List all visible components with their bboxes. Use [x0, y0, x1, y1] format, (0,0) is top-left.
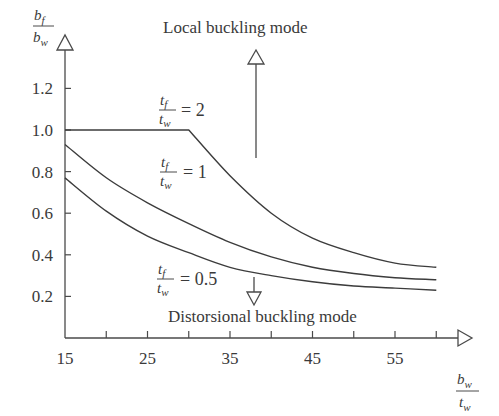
y-tick-label: 0.4 — [32, 246, 54, 265]
x-ticks: 1525354555 — [57, 331, 437, 368]
local-buckling-annotation: Local buckling mode — [163, 18, 307, 158]
y-tick-label: 0.6 — [32, 204, 53, 223]
y-tick-label: 0.8 — [32, 163, 53, 182]
svg-text:tw: tw — [157, 280, 169, 298]
curve-label-tf-tw-1: tf tw = 1 — [160, 154, 207, 191]
y-tick-label: 1.0 — [32, 121, 53, 140]
svg-text:tf: tf — [160, 92, 169, 110]
x-tick-label: 25 — [139, 349, 156, 368]
y-axis-arrowhead-icon — [57, 35, 73, 50]
curve-label-tf-tw-2: tf tw = 2 — [159, 92, 205, 129]
x-tick-label: 35 — [222, 349, 239, 368]
svg-text:tw: tw — [159, 111, 171, 129]
y-label-denominator: bw — [33, 29, 49, 48]
y-tick-label: 0.2 — [32, 287, 53, 306]
buckling-mode-chart: 0.20.40.60.81.01.2 1525354555 bf bw bw t… — [0, 0, 499, 416]
axes — [57, 35, 472, 346]
x-label-denominator: tw — [459, 394, 471, 413]
distortional-buckling-label: Distorsional buckling mode — [168, 307, 357, 326]
local-buckling-label: Local buckling mode — [163, 18, 307, 37]
x-tick-label: 55 — [387, 349, 404, 368]
up-arrow-icon — [248, 50, 264, 64]
svg-text:= 1: = 1 — [183, 162, 207, 182]
svg-text:tw: tw — [160, 173, 172, 191]
y-label-numerator: bf — [34, 7, 47, 26]
x-tick-label: 15 — [57, 349, 74, 368]
svg-text:= 2: = 2 — [181, 100, 205, 120]
x-axis-arrowhead-icon — [458, 330, 472, 346]
curve-tf-tw-2 — [65, 130, 436, 267]
svg-text:= 0.5: = 0.5 — [180, 269, 217, 289]
down-arrow-icon — [247, 292, 261, 305]
x-tick-label: 45 — [304, 349, 321, 368]
curve-label-tf-tw-0.5: tf tw = 0.5 — [157, 261, 217, 298]
x-label-numerator: bw — [457, 371, 473, 390]
y-axis-label: bf bw — [33, 7, 54, 48]
svg-text:tf: tf — [161, 154, 170, 172]
curves — [65, 130, 436, 290]
curve-tf-tw-0.5 — [65, 178, 436, 290]
y-tick-label: 1.2 — [32, 79, 53, 98]
svg-text:tf: tf — [158, 261, 167, 279]
x-axis-label: bw tw — [456, 371, 479, 413]
